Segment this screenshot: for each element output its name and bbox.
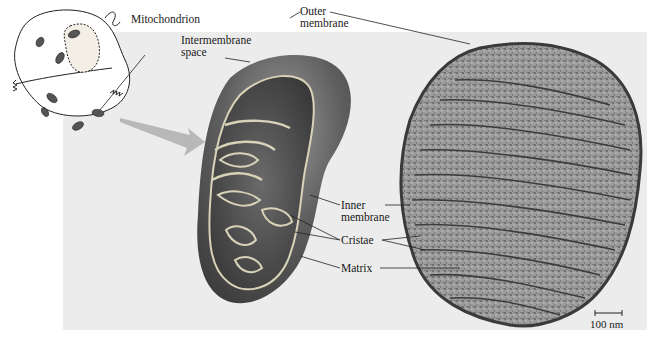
label-intermembrane-space: Intermembrane space bbox=[181, 34, 251, 58]
label-cristae: Cristae bbox=[341, 234, 374, 246]
diagram-artwork bbox=[0, 0, 654, 337]
label-intermembrane-line1: Intermembrane bbox=[181, 34, 251, 46]
zoom-arrow bbox=[120, 118, 205, 156]
label-inner-line1: Inner bbox=[341, 199, 390, 211]
label-mitochondrion: Mitochondrion bbox=[131, 13, 200, 25]
cell-sketch bbox=[13, 10, 130, 116]
label-inner-line2: membrane bbox=[341, 211, 390, 223]
label-outer-membrane: Outer membrane bbox=[300, 5, 349, 29]
label-outer-line1: Outer bbox=[300, 5, 349, 17]
label-inner-membrane: Inner membrane bbox=[341, 199, 390, 223]
scale-bar bbox=[595, 310, 622, 316]
label-outer-line2: membrane bbox=[300, 17, 349, 29]
label-matrix: Matrix bbox=[341, 262, 372, 274]
electron-micrograph bbox=[401, 44, 641, 326]
scale-bar-label: 100 nm bbox=[590, 318, 623, 330]
mitochondrion-illustration bbox=[197, 55, 351, 303]
label-intermembrane-line2: space bbox=[181, 46, 251, 58]
